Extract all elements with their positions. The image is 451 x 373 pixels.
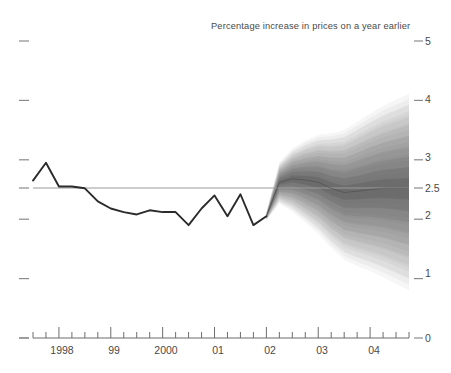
xtick-label-99: 99 bbox=[89, 344, 139, 356]
xtick-label-03: 03 bbox=[297, 344, 347, 356]
ytick-label-0: 0 bbox=[425, 332, 431, 344]
ytick-label-1: 1 bbox=[425, 267, 431, 279]
xtick-label-01: 01 bbox=[193, 344, 243, 356]
ytick-label-2point5: 2.5 bbox=[425, 182, 440, 194]
xtick-label-1998: 1998 bbox=[37, 344, 87, 356]
xtick-label-2000: 2000 bbox=[141, 344, 191, 356]
chart-plot-area bbox=[0, 0, 451, 373]
ytick-label-3: 3 bbox=[425, 151, 431, 163]
fan-bands-layer bbox=[266, 94, 409, 290]
ytick-label-4: 4 bbox=[425, 93, 431, 105]
xtick-label-02: 02 bbox=[245, 344, 295, 356]
ytick-label-2: 2 bbox=[425, 209, 431, 221]
fan-chart: Percentage increase in prices on a year … bbox=[0, 0, 451, 373]
xtick-label-04: 04 bbox=[349, 344, 399, 356]
ytick-label-5: 5 bbox=[425, 35, 431, 47]
